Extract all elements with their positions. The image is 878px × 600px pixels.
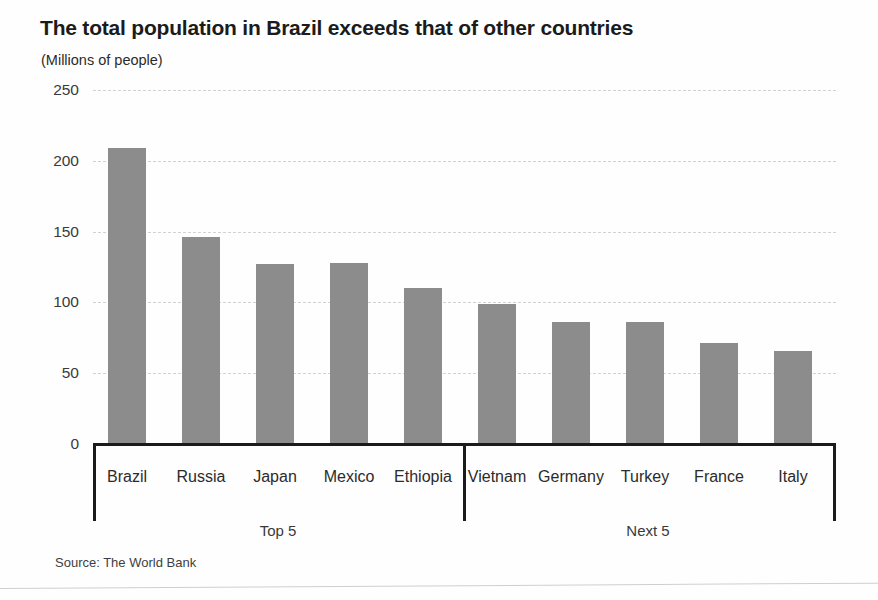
bar — [330, 263, 368, 444]
x-axis-category-label: Vietnam — [468, 468, 526, 486]
chart-figure: The total population in Brazil exceeds t… — [0, 0, 878, 600]
axis-bracket-middle — [463, 443, 466, 521]
y-axis-tick-label: 150 — [53, 223, 79, 241]
x-axis-category-label: Germany — [538, 468, 604, 486]
bar — [256, 264, 294, 444]
x-axis-category-label: Mexico — [324, 468, 375, 486]
bar — [700, 343, 738, 444]
y-axis-tick-label: 200 — [53, 152, 79, 170]
bar — [774, 351, 812, 444]
axis-bracket-left — [93, 443, 96, 521]
source-note: Source: The World Bank — [55, 555, 196, 570]
bar — [108, 148, 146, 444]
bar — [478, 304, 516, 444]
plot-area: 050100150200250 — [93, 90, 836, 444]
x-axis-category-label: Japan — [253, 468, 297, 486]
group-label: Top 5 — [260, 522, 297, 539]
chart-title: The total population in Brazil exceeds t… — [40, 16, 860, 40]
x-axis-category-label: Italy — [778, 468, 807, 486]
x-axis-category-label: Brazil — [107, 468, 147, 486]
axis-bracket-right — [833, 443, 836, 521]
x-axis-category-label: Russia — [177, 468, 226, 486]
y-axis-tick-label: 50 — [62, 364, 79, 382]
y-axis-tick-label: 100 — [53, 293, 79, 311]
bar — [182, 237, 220, 444]
group-label: Next 5 — [626, 522, 669, 539]
bar — [552, 322, 590, 444]
x-axis-category-label: Ethiopia — [394, 468, 452, 486]
bar — [626, 322, 664, 444]
bar-series — [93, 90, 836, 444]
y-axis-tick-label: 250 — [53, 81, 79, 99]
y-axis-tick-label: 0 — [70, 435, 79, 453]
bar — [404, 288, 442, 444]
x-axis-category-label: France — [694, 468, 744, 486]
page-edge-line — [0, 583, 878, 589]
chart-subtitle: (Millions of people) — [41, 52, 163, 68]
x-axis-category-label: Turkey — [621, 468, 669, 486]
